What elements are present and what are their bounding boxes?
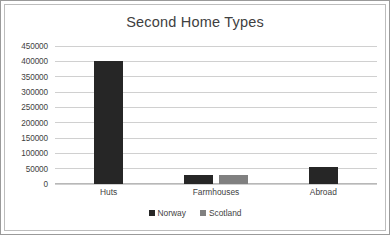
legend-label: Norway bbox=[158, 208, 186, 218]
chart-title: Second Home Types bbox=[5, 14, 385, 30]
bar-group bbox=[55, 46, 162, 184]
x-tick-label: Farmhouses bbox=[193, 187, 240, 197]
legend-label: Scotland bbox=[209, 208, 242, 218]
legend-entry-scotland[interactable]: Scotland bbox=[200, 208, 242, 218]
chart-legend: NorwayScotland bbox=[5, 208, 385, 218]
bar-scotland-farmhouses[interactable] bbox=[219, 175, 248, 184]
plot-area bbox=[55, 46, 377, 184]
legend-swatch-icon bbox=[149, 210, 155, 216]
bar-norway-abroad[interactable] bbox=[309, 167, 338, 184]
y-tick-label: 400000 bbox=[21, 57, 48, 66]
x-axis-labels: HutsFarmhousesAbroad bbox=[55, 187, 377, 201]
y-tick-label: 0 bbox=[44, 180, 48, 189]
y-tick-label: 200000 bbox=[21, 118, 48, 127]
y-tick-label: 350000 bbox=[21, 72, 48, 81]
bar-norway-farmhouses[interactable] bbox=[184, 175, 213, 184]
chart-frame: Second Home Types 0500001000001500002000… bbox=[0, 0, 390, 235]
x-tick-label: Abroad bbox=[310, 187, 337, 197]
bar-group bbox=[270, 46, 377, 184]
y-tick-label: 250000 bbox=[21, 103, 48, 112]
legend-entry-norway[interactable]: Norway bbox=[149, 208, 186, 218]
y-tick-label: 300000 bbox=[21, 88, 48, 97]
bar-group bbox=[162, 46, 269, 184]
y-tick-label: 450000 bbox=[21, 42, 48, 51]
x-tick-label: Huts bbox=[100, 187, 117, 197]
legend-swatch-icon bbox=[200, 210, 206, 216]
y-tick-label: 150000 bbox=[21, 134, 48, 143]
chart-inner-border: Second Home Types 0500001000001500002000… bbox=[4, 4, 386, 231]
y-axis-labels: 0500001000001500002000002500003000003500… bbox=[5, 46, 51, 184]
y-tick-label: 100000 bbox=[21, 149, 48, 158]
y-tick-label: 50000 bbox=[26, 164, 48, 173]
bar-norway-huts[interactable] bbox=[94, 61, 123, 184]
